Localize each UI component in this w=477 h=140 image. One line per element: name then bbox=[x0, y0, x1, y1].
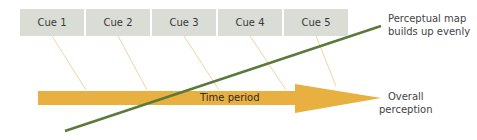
cue-box-2: Cue 2 bbox=[86, 9, 150, 36]
cue-label: Cue 5 bbox=[301, 17, 330, 28]
cue-box-5: Cue 5 bbox=[284, 9, 348, 36]
time-period-label: Time period bbox=[200, 91, 260, 105]
cue-label: Cue 3 bbox=[169, 17, 198, 28]
perceptual-map-line1: Perceptual map bbox=[388, 12, 470, 25]
cue-box-3: Cue 3 bbox=[152, 9, 216, 36]
cue-box-4: Cue 4 bbox=[218, 9, 282, 36]
perceptual-map-label: Perceptual map builds up evenly bbox=[388, 12, 470, 38]
overall-line2: perception bbox=[379, 103, 433, 116]
cue-label: Cue 2 bbox=[103, 17, 132, 28]
cue-label: Cue 4 bbox=[235, 17, 264, 28]
perceptual-map-line2: builds up evenly bbox=[388, 25, 470, 38]
cue-label: Cue 1 bbox=[37, 17, 66, 28]
overall-perception-label: Overall perception bbox=[379, 90, 433, 116]
cue-box-1: Cue 1 bbox=[20, 9, 84, 36]
overall-line1: Overall bbox=[379, 90, 433, 103]
cue-connectors bbox=[52, 36, 336, 90]
perceptual-trend-line bbox=[65, 26, 381, 131]
